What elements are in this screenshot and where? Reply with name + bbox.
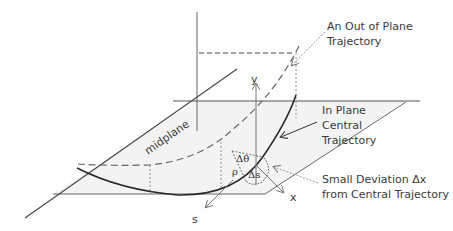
s-axis-label: s [192, 213, 198, 226]
in-plane-label-line1: In Plane [322, 104, 366, 117]
y-axis-label: y [251, 73, 258, 86]
x-axis-label: x [290, 191, 297, 204]
in-plane-label-line2: Central [322, 119, 362, 132]
deviation-label-line1: Small Deviation Δx [322, 173, 427, 186]
rho-label: ρ [232, 166, 238, 177]
delta-theta-label: Δθ [236, 153, 249, 164]
out-of-plane-label-line2: Trajectory [326, 35, 382, 48]
out-of-plane-leader [292, 32, 325, 65]
deviation-label-line2: from Central Trajectory [322, 188, 449, 201]
in-plane-label-line3: Trajectory [321, 134, 377, 147]
trajectory-diagram: An Out of Plane Trajectory In Plane Cent… [0, 0, 453, 231]
delta-s-label: Δs [248, 169, 260, 180]
out-of-plane-label-line1: An Out of Plane [327, 20, 413, 33]
